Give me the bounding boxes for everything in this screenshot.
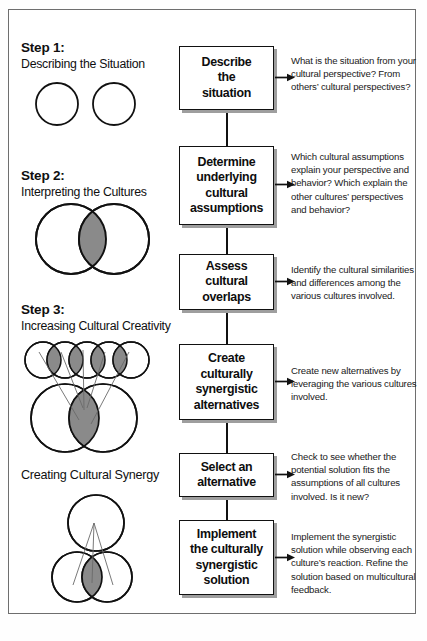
step-1-heading: Step 1: <box>21 40 65 55</box>
description-text-6: Implement the synergistic solution while… <box>291 530 417 596</box>
two-separate-circles-diagram <box>23 80 163 128</box>
step-3-subheading: Increasing Cultural Creativity <box>21 319 171 333</box>
flow-box-label: Describe the situation <box>198 55 256 102</box>
description-text-5: Check to see whether the potential solut… <box>291 450 417 503</box>
step-2-subheading: Interpreting the Cultures <box>21 185 147 199</box>
figure-frame: Step 1: Describing the Situation Step 2:… <box>8 9 416 614</box>
three-circle-synergy-diagram <box>37 493 155 605</box>
flow-box-label: Assess cultural overlaps <box>198 259 255 306</box>
flow-box-label: Determine underlying cultural assumption… <box>186 155 267 217</box>
description-text-3: Identify the cultural similarities and d… <box>291 263 417 303</box>
connector-2-3 <box>226 225 228 254</box>
description-text-1: What is the situation from your cultural… <box>291 54 417 94</box>
left-illustration-column: Step 1: Describing the Situation Step 2:… <box>9 10 169 613</box>
flow-box-label: Create culturally synergistic alternativ… <box>190 351 263 413</box>
step-2-heading: Step 2: <box>21 168 65 183</box>
synergy-heading: Creating Cultural Synergy <box>21 468 159 482</box>
flow-box-determine-underlying-cultural-assumptions[interactable]: Determine underlying cultural assumption… <box>179 146 274 225</box>
flow-box-label: Implement the culturally synergistic sol… <box>186 527 267 589</box>
figure-caption <box>9 627 309 639</box>
description-text-4: Create new alternatives by leveraging th… <box>291 364 417 404</box>
flow-box-select-an-alternative[interactable]: Select an alternative <box>179 453 274 497</box>
flow-box-describe-the-situation[interactable]: Describe the situation <box>179 46 274 110</box>
flow-box-assess-cultural-overlaps[interactable]: Assess cultural overlaps <box>179 254 274 310</box>
flow-box-implement-the-culturally-synergistic-solution[interactable]: Implement the culturally synergistic sol… <box>179 520 274 595</box>
flow-box-create-culturally-synergistic-alternatives[interactable]: Create culturally synergistic alternativ… <box>179 344 274 420</box>
connector-5-6 <box>226 497 228 520</box>
step-3-heading: Step 3: <box>21 302 65 317</box>
connector-4-5 <box>226 420 228 453</box>
cultural-creativity-diagram <box>19 338 171 454</box>
description-text-2: Which cultural assumptions explain your … <box>291 150 417 216</box>
flowchart-column: Describe the situation Determine underly… <box>169 10 279 613</box>
step-1-subheading: Describing the Situation <box>21 57 145 71</box>
description-column: What is the situation from your cultural… <box>291 10 417 613</box>
connector-1-2 <box>226 110 228 146</box>
connector-3-4 <box>226 310 228 344</box>
two-overlapping-circles-venn-diagram <box>19 200 169 278</box>
figure-page: Step 1: Describing the Situation Step 2:… <box>0 0 427 641</box>
flow-box-label: Select an alternative <box>193 460 260 491</box>
